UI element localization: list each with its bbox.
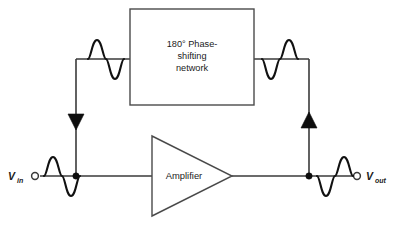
output-terminal-ring [354,173,361,180]
input-terminal-subscript: in [17,177,23,184]
phase-network-label-line3: network [176,63,209,73]
circuit-canvas: 180° Phase- shifting network Amplifier V… [0,0,393,230]
right-junction-dot [306,173,312,179]
input-terminal-ring [32,173,39,180]
feedback-arrow-down-icon [68,114,84,130]
input-terminal-label: V [8,170,16,182]
output-terminal-subscript: out [375,177,387,184]
feedback-arrow-up-icon [301,112,317,128]
phase-network-label-line1: 180° Phase- [167,39,218,49]
output-terminal-label: V [366,170,374,182]
amplifier-label: Amplifier [166,170,202,181]
phase-network-label-line2: shifting [177,51,206,61]
oscillator-diagram: 180° Phase- shifting network Amplifier V… [0,0,393,230]
